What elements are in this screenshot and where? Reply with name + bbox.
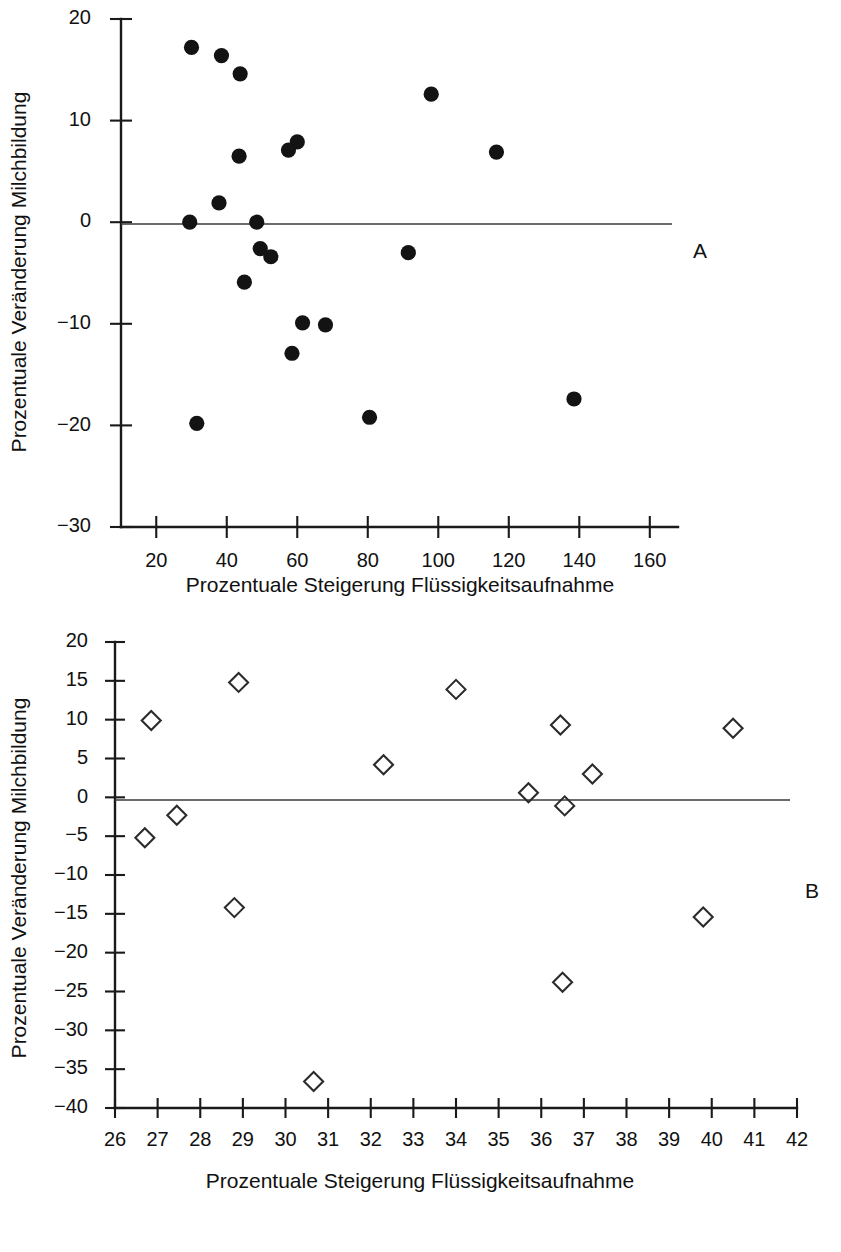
data-point xyxy=(447,680,466,699)
data-point xyxy=(229,673,248,692)
x-tick-label: 40 xyxy=(701,1128,723,1150)
y-tick-label: −15 xyxy=(54,901,88,923)
y-tick-label: 0 xyxy=(80,209,91,231)
data-point xyxy=(211,195,226,210)
scatter-figure: 20100−10−20−30 20406080100120140160 Proz… xyxy=(0,0,841,1252)
x-tick-label: 80 xyxy=(357,549,379,571)
panel-b: 20151050−5−10−15−20−25−30−35−40 26272829… xyxy=(0,620,841,1252)
y-tick-label: −30 xyxy=(54,1018,88,1040)
x-tick-label: 31 xyxy=(317,1128,339,1150)
data-point xyxy=(583,765,602,784)
y-tick-label: 10 xyxy=(66,707,88,729)
data-point xyxy=(424,87,439,102)
data-point xyxy=(142,711,161,730)
data-point xyxy=(167,806,186,825)
x-axis-ticks-a: 20406080100120140160 xyxy=(145,516,666,571)
data-point xyxy=(295,315,310,330)
data-point xyxy=(374,755,393,774)
x-tick-label: 120 xyxy=(492,549,525,571)
y-tick-label: −40 xyxy=(54,1095,88,1117)
x-tick-label: 26 xyxy=(104,1128,126,1150)
data-point xyxy=(225,898,244,917)
y-tick-label: −10 xyxy=(54,862,88,884)
data-point xyxy=(489,144,504,159)
data-point xyxy=(233,66,248,81)
x-tick-label: 42 xyxy=(786,1128,808,1150)
x-tick-label: 20 xyxy=(145,549,167,571)
panel-a-plot: 20100−10−20−30 20406080100120140160 Proz… xyxy=(0,0,841,620)
data-point xyxy=(304,1072,323,1091)
data-point xyxy=(237,275,252,290)
panel-b-plot: 20151050−5−10−15−20−25−30−35−40 26272829… xyxy=(0,620,841,1252)
y-tick-label: 10 xyxy=(69,108,91,130)
x-tick-label: 36 xyxy=(530,1128,552,1150)
data-point xyxy=(401,245,416,260)
x-axis-ticks-b: 2627282930313233343536373839404142 xyxy=(104,1098,808,1150)
y-tick-label: −30 xyxy=(57,514,91,536)
panel-label-b: B xyxy=(805,879,819,902)
data-point xyxy=(214,48,229,63)
x-tick-label: 35 xyxy=(488,1128,510,1150)
y-tick-label: −35 xyxy=(54,1056,88,1078)
x-tick-label: 30 xyxy=(274,1128,296,1150)
x-tick-label: 29 xyxy=(232,1128,254,1150)
y-tick-label: 5 xyxy=(77,746,88,768)
y-axis-title-a: Prozentuale Veränderung Milchbildung xyxy=(7,92,30,453)
x-tick-label: 34 xyxy=(445,1128,467,1150)
data-point xyxy=(724,719,743,738)
data-point xyxy=(566,391,581,406)
x-tick-label: 37 xyxy=(573,1128,595,1150)
y-tick-label: 20 xyxy=(66,629,88,651)
data-point xyxy=(284,346,299,361)
y-tick-label: −25 xyxy=(54,979,88,1001)
x-tick-label: 40 xyxy=(216,549,238,571)
x-tick-label: 160 xyxy=(633,549,666,571)
data-points-b xyxy=(135,673,742,1091)
data-point xyxy=(263,249,278,264)
y-axis-title-wrap-a: Prozentuale Veränderung Milchbildung xyxy=(0,0,40,620)
x-tick-label: 32 xyxy=(360,1128,382,1150)
data-point xyxy=(189,416,204,431)
data-points-a xyxy=(182,40,581,431)
x-tick-label: 28 xyxy=(189,1128,211,1150)
x-tick-label: 60 xyxy=(286,549,308,571)
x-axis-title-a: Prozentuale Steigerung Flüssigkeitsaufna… xyxy=(186,573,614,596)
y-tick-label: −10 xyxy=(57,311,91,333)
x-tick-label: 100 xyxy=(422,549,455,571)
data-point xyxy=(281,142,296,157)
x-tick-label: 41 xyxy=(743,1128,765,1150)
data-point xyxy=(135,828,154,847)
x-tick-label: 140 xyxy=(563,549,596,571)
data-point xyxy=(318,317,333,332)
x-tick-label: 33 xyxy=(402,1128,424,1150)
x-tick-label: 39 xyxy=(658,1128,680,1150)
y-tick-label: 20 xyxy=(69,6,91,28)
data-point xyxy=(184,40,199,55)
x-tick-label: 27 xyxy=(147,1128,169,1150)
x-axis-title-b: Prozentuale Steigerung Flüssigkeitsaufna… xyxy=(206,1169,634,1192)
y-axis-title-b: Prozentuale Veränderung Milchbildung xyxy=(7,698,30,1059)
y-tick-label: 0 xyxy=(77,785,88,807)
y-tick-label: −20 xyxy=(54,940,88,962)
x-tick-label: 38 xyxy=(615,1128,637,1150)
y-tick-label: −5 xyxy=(65,823,88,845)
data-point xyxy=(551,716,570,735)
data-point xyxy=(182,215,197,230)
data-point xyxy=(231,149,246,164)
data-point xyxy=(553,973,572,992)
data-point xyxy=(249,215,264,230)
y-tick-label: 15 xyxy=(66,668,88,690)
data-point xyxy=(694,907,713,926)
y-axis-title-wrap-b: Prozentuale Veränderung Milchbildung xyxy=(0,620,40,1252)
y-tick-label: −20 xyxy=(57,413,91,435)
panel-a: 20100−10−20−30 20406080100120140160 Proz… xyxy=(0,0,841,620)
data-point xyxy=(362,410,377,425)
panel-label-a: A xyxy=(693,239,707,262)
